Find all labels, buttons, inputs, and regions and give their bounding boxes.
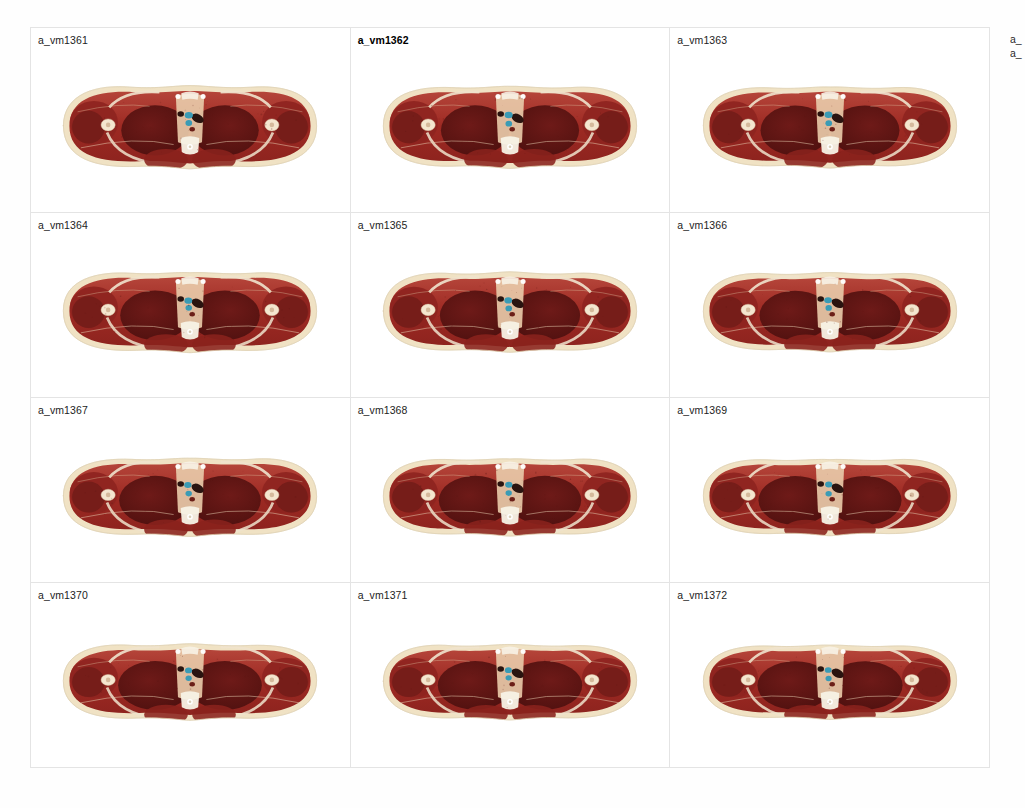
slice-cell[interactable]: a_vm1372 bbox=[670, 583, 990, 768]
clipped-right-column: a_ a_ bbox=[1010, 27, 1025, 768]
slice-label: a_vm1367 bbox=[38, 404, 88, 417]
slice-label: a_vm1371 bbox=[358, 589, 408, 602]
slice-label: a_vm1361 bbox=[38, 34, 88, 47]
slice-cell[interactable]: a_vm1371 bbox=[351, 583, 671, 768]
cryosection-image[interactable] bbox=[42, 616, 338, 745]
slice-cell[interactable]: a_vm1363 bbox=[670, 28, 990, 213]
cryosection-image[interactable] bbox=[681, 61, 977, 190]
slice-cell[interactable]: a_vm1370 bbox=[31, 583, 351, 768]
slice-cell[interactable]: a_vm1367 bbox=[31, 398, 351, 583]
slice-label: a_vm1372 bbox=[677, 589, 727, 602]
cryosection-image[interactable] bbox=[42, 61, 338, 190]
slice-label: a_vm1364 bbox=[38, 219, 88, 232]
cryosection-image[interactable] bbox=[681, 616, 977, 745]
slice-cell[interactable]: a_vm1364 bbox=[31, 213, 351, 398]
slice-cell[interactable]: a_vm1366 bbox=[670, 213, 990, 398]
slice-viewer: a_vm1361 bbox=[0, 0, 1025, 808]
slice-label: a_vm1363 bbox=[677, 34, 727, 47]
slice-grid: a_vm1361 bbox=[30, 27, 990, 768]
cryosection-image[interactable] bbox=[362, 431, 658, 560]
slice-label: a_vm1368 bbox=[358, 404, 408, 417]
slice-label: a_vm1365 bbox=[358, 219, 408, 232]
slice-label: a_vm1370 bbox=[38, 589, 88, 602]
slice-label: a_vm1362 bbox=[358, 34, 409, 47]
slice-cell[interactable]: a_vm1362 bbox=[351, 28, 671, 213]
cryosection-image[interactable] bbox=[362, 616, 658, 745]
clipped-label-row1: a_ bbox=[1010, 33, 1022, 46]
slice-label: a_vm1369 bbox=[677, 404, 727, 417]
cryosection-image[interactable] bbox=[42, 431, 338, 560]
slice-cell[interactable]: a_vm1369 bbox=[670, 398, 990, 583]
cryosection-image[interactable] bbox=[681, 246, 977, 375]
cryosection-image[interactable] bbox=[681, 431, 977, 560]
cryosection-image[interactable] bbox=[42, 246, 338, 375]
cryosection-image[interactable] bbox=[362, 61, 658, 190]
slice-cell[interactable]: a_vm1365 bbox=[351, 213, 671, 398]
cryosection-image[interactable] bbox=[362, 246, 658, 375]
slice-cell[interactable]: a_vm1368 bbox=[351, 398, 671, 583]
slice-cell[interactable]: a_vm1361 bbox=[31, 28, 351, 213]
slice-label: a_vm1366 bbox=[677, 219, 727, 232]
clipped-label-row2: a_ bbox=[1010, 47, 1022, 60]
